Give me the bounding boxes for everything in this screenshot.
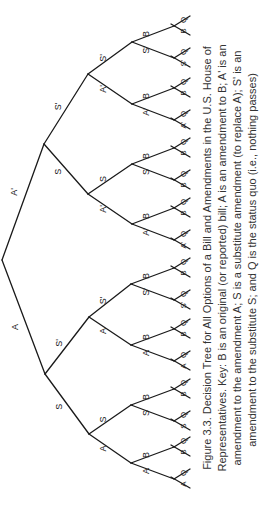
edge-l3-6 bbox=[88, 74, 132, 104]
edge-l4-13 bbox=[132, 88, 174, 104]
leaf-label: B bbox=[179, 182, 188, 187]
branch-label: S bbox=[141, 169, 151, 175]
branch-label: S' bbox=[98, 54, 108, 62]
branch-label: S' bbox=[141, 288, 151, 296]
branch-label: A' bbox=[141, 228, 151, 236]
branch-label: B bbox=[141, 452, 151, 458]
edge-l4-12 bbox=[132, 104, 174, 120]
leaf-label: Q bbox=[179, 111, 188, 117]
branch-label: A bbox=[141, 350, 151, 356]
edge-l4-15 bbox=[132, 26, 174, 42]
leaf-label: A' bbox=[179, 241, 188, 248]
edge-l4-10 bbox=[132, 164, 174, 180]
leaf-label: B bbox=[179, 331, 188, 336]
branch-label: A bbox=[141, 468, 151, 474]
leaf-label: Q bbox=[179, 171, 188, 177]
leaf-label: Q bbox=[179, 231, 188, 237]
leaf-label: Q bbox=[179, 259, 188, 265]
figure-caption-line: amendment to the substitute S; and Q is … bbox=[246, 73, 258, 447]
branch-label: A' bbox=[141, 108, 151, 116]
leaf-label: Q bbox=[179, 352, 188, 358]
edge-l4-5 bbox=[131, 329, 174, 345]
leaf-label: A bbox=[179, 363, 188, 369]
edge-l3-1 bbox=[89, 405, 131, 434]
branch-label: A' bbox=[98, 205, 108, 213]
leaf-label: B bbox=[179, 90, 188, 95]
edge-l4-3 bbox=[131, 389, 174, 405]
edge-l2-3 bbox=[44, 74, 88, 144]
edge-root-0 bbox=[2, 260, 45, 374]
branch-label: A bbox=[10, 324, 20, 330]
edge-l2-1 bbox=[45, 317, 89, 374]
edge-l2-2 bbox=[44, 144, 88, 194]
edge-l3-5 bbox=[88, 164, 132, 194]
leaf-label: B bbox=[179, 391, 188, 396]
decision-tree-diagram: AA'SS'SS'ASAS'A'SA'S'ABSBABS'BA'BSBA'BS'… bbox=[0, 0, 273, 505]
leaf-label: Q bbox=[179, 291, 188, 297]
branch-label: S bbox=[98, 176, 108, 182]
branch-label: A' bbox=[98, 85, 108, 93]
edge-l4-0 bbox=[131, 463, 174, 479]
leaf-label: S' bbox=[179, 59, 188, 66]
branch-label: A bbox=[98, 445, 108, 451]
edge-l2-0 bbox=[45, 374, 89, 434]
edge-l3-2 bbox=[89, 317, 131, 345]
branch-label: B bbox=[141, 31, 151, 37]
leaf-label: B bbox=[179, 28, 188, 33]
edge-l4-7 bbox=[131, 268, 174, 284]
leaf-label: B bbox=[179, 270, 188, 275]
edge-l4-11 bbox=[132, 148, 174, 164]
decision-tree-figure: AA'SS'SS'ASAS'A'SA'S'ABSBABS'BA'BSBA'BS'… bbox=[0, 0, 273, 505]
edge-l4-4 bbox=[131, 345, 174, 361]
branch-label: B bbox=[141, 93, 151, 99]
leaf-label: Q bbox=[179, 412, 188, 418]
edge-l4-14 bbox=[132, 42, 174, 58]
branch-label: S bbox=[54, 404, 64, 410]
branch-label: A bbox=[98, 328, 108, 334]
leaf-label: B bbox=[179, 449, 188, 454]
branch-label: B bbox=[141, 273, 151, 279]
leaf-label: Q bbox=[179, 320, 188, 326]
leaf-label: S' bbox=[179, 301, 188, 308]
leaf-label: S bbox=[179, 423, 188, 428]
edge-root-1 bbox=[2, 144, 44, 260]
leaf-label: Q bbox=[179, 79, 188, 85]
figure-caption-line: Figure 3.3. Decision Tree for All Option… bbox=[201, 45, 213, 470]
edge-l4-6 bbox=[131, 284, 174, 300]
branch-label: S' bbox=[54, 339, 64, 347]
branch-label: S bbox=[53, 169, 63, 175]
leaf-label: Q bbox=[179, 139, 188, 145]
edge-l4-2 bbox=[131, 405, 174, 421]
branch-label: B bbox=[141, 394, 151, 400]
branch-label: S bbox=[141, 410, 151, 416]
leaf-label: Q bbox=[179, 438, 188, 444]
edge-l4-1 bbox=[131, 447, 174, 463]
branch-label: B bbox=[141, 153, 151, 159]
edge-l4-8 bbox=[132, 224, 174, 240]
leaf-label: Q bbox=[179, 380, 188, 386]
leaf-label: Q bbox=[179, 49, 188, 55]
branch-label: S' bbox=[98, 296, 108, 304]
figure-caption-line: Representatives. Key: B is an original (… bbox=[216, 44, 228, 471]
leaf-label: A bbox=[179, 481, 188, 487]
leaf-label: B bbox=[179, 210, 188, 215]
edge-l3-7 bbox=[88, 42, 132, 74]
leaf-label: A' bbox=[179, 121, 188, 128]
branch-label: A' bbox=[9, 188, 19, 196]
leaf-label: Q bbox=[179, 470, 188, 476]
leaf-label: Q bbox=[179, 199, 188, 205]
edge-l3-0 bbox=[89, 434, 131, 463]
edge-l3-4 bbox=[88, 194, 132, 224]
figure-caption-line: amendment to the amendment A; S is a sub… bbox=[231, 51, 243, 466]
branch-label: B bbox=[141, 334, 151, 340]
edge-l4-9 bbox=[132, 208, 174, 224]
edge-l3-3 bbox=[89, 284, 131, 317]
leaf-label: Q bbox=[179, 17, 188, 23]
branch-label: S' bbox=[53, 102, 63, 110]
branch-label: B bbox=[141, 213, 151, 219]
leaf-label: B bbox=[179, 150, 188, 155]
branch-label: S' bbox=[141, 46, 151, 54]
branch-label: S bbox=[98, 416, 108, 422]
